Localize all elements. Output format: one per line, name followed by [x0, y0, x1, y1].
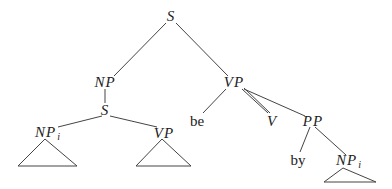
node-np-i-left: NPi — [35, 125, 61, 142]
edge-s-npi — [58, 116, 102, 127]
edge-s-vp-inner — [110, 116, 157, 127]
tree-edges — [0, 0, 392, 189]
triangle-npi-left — [18, 139, 77, 166]
triangle-vp-inner — [136, 139, 191, 166]
node-np-i-right-label: NP — [336, 152, 357, 168]
node-np-top: NP — [94, 75, 115, 90]
node-pp: PP — [303, 114, 323, 129]
edge-vp-v-a — [242, 89, 268, 113]
node-np-i-left-subscript: i — [57, 131, 61, 142]
node-vp-top: VP — [224, 75, 244, 90]
node-s-inner: S — [101, 103, 110, 118]
node-be: be — [190, 114, 204, 129]
edge-vp-v-b — [244, 88, 270, 113]
edge-vp-be — [203, 89, 226, 113]
node-np-i-left-label: NP — [35, 124, 56, 140]
node-by: by — [291, 153, 306, 168]
node-s-root: S — [167, 9, 176, 24]
node-v: V — [267, 114, 277, 129]
node-np-i-right: NPi — [336, 153, 362, 170]
node-np-i-right-subscript: i — [358, 159, 362, 170]
edge-s-np — [114, 23, 166, 76]
syntax-tree-diagram: S NP VP S NPi VP be V PP by NPi — [0, 0, 392, 189]
edge-pp-by — [300, 127, 310, 152]
triangle-npi-right — [324, 168, 376, 182]
node-vp-inner: VP — [154, 126, 174, 141]
edge-s-vp — [176, 23, 228, 76]
